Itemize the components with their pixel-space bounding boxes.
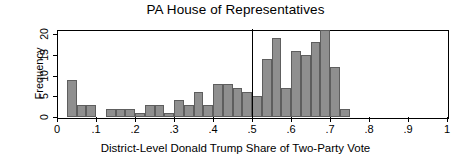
histogram-bar [174, 100, 184, 117]
x-tick-mark [213, 117, 214, 122]
plot-area: Frequency 05101520 0.1.2.3.4.5.6.7.8.91 [57, 30, 447, 117]
y-tick-mark [53, 96, 57, 97]
histogram-bar [242, 92, 252, 117]
histogram-bar [272, 38, 282, 117]
histogram-bar [184, 105, 194, 117]
x-tick-mark [96, 117, 97, 122]
histogram-bar [311, 42, 321, 117]
histogram-bar [233, 88, 243, 117]
histogram-bar [135, 113, 145, 117]
x-tick-label: .9 [395, 123, 421, 135]
x-tick-mark [57, 117, 58, 122]
x-tick-label: .4 [200, 123, 226, 135]
x-tick-mark [447, 117, 448, 122]
histogram-bar [320, 30, 330, 117]
x-tick-label: 0 [44, 123, 70, 135]
histogram-figure: PA House of Representatives Frequency 05… [0, 0, 471, 162]
histogram-bar [291, 51, 301, 117]
y-tick-mark [53, 55, 57, 56]
histogram-bar [330, 67, 340, 117]
x-tick-mark [291, 117, 292, 122]
y-tick-label: 0 [35, 110, 53, 124]
chart-title: PA House of Representatives [0, 2, 471, 17]
histogram-bar [223, 84, 233, 117]
x-tick-label: .1 [83, 123, 109, 135]
x-tick-label: .6 [278, 123, 304, 135]
histogram-bar [86, 105, 96, 117]
x-tick-label: .2 [122, 123, 148, 135]
x-tick-label: .3 [161, 123, 187, 135]
x-tick-mark [252, 117, 253, 122]
histogram-bar [252, 96, 262, 117]
histogram-bar [155, 105, 165, 117]
histogram-bar [116, 109, 126, 117]
histogram-bar [145, 105, 155, 117]
histogram-bar [301, 55, 311, 117]
histogram-bar [67, 80, 77, 117]
x-tick-mark [174, 117, 175, 122]
x-tick-label: .8 [356, 123, 382, 135]
x-tick-mark [408, 117, 409, 122]
x-tick-label: 1 [434, 123, 460, 135]
histogram-bar [281, 88, 291, 117]
y-tick-label: 5 [35, 89, 53, 103]
y-tick-mark [53, 76, 57, 77]
reference-line-vline [252, 29, 253, 117]
x-tick-label: .7 [317, 123, 343, 135]
x-tick-mark [330, 117, 331, 122]
histogram-bar [125, 109, 135, 117]
histogram-bar [164, 113, 174, 117]
x-tick-mark [369, 117, 370, 122]
histogram-bar [213, 84, 223, 117]
y-tick-label: 20 [35, 27, 53, 41]
x-tick-label: .5 [239, 123, 265, 135]
histogram-bar [203, 105, 213, 117]
histogram-bar [106, 109, 116, 117]
y-tick-mark [53, 34, 57, 35]
histogram-bar [194, 92, 204, 117]
histogram-bar [262, 59, 272, 117]
histogram-bar [340, 109, 350, 117]
x-axis-title: District-Level Donald Trump Share of Two… [0, 142, 471, 154]
x-tick-mark [135, 117, 136, 122]
y-tick-label: 15 [35, 48, 53, 62]
histogram-bar [77, 105, 87, 117]
y-tick-label: 10 [35, 69, 53, 83]
